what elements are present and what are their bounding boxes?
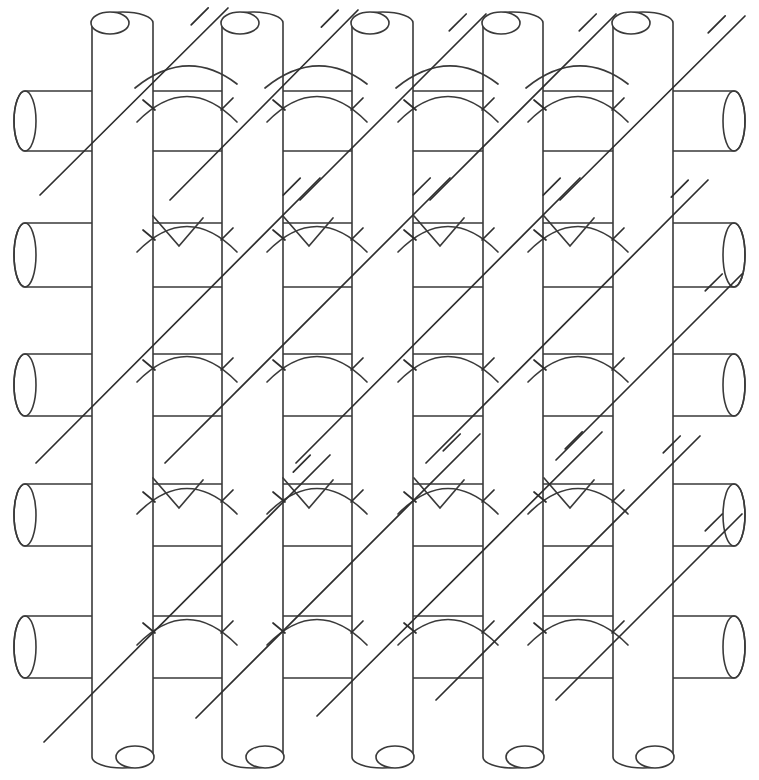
- vertical-tube-bottom-cap-5: [636, 746, 674, 768]
- figure-canvas: [0, 0, 759, 780]
- vertical-tube-body-4: [483, 12, 543, 768]
- vertical-tube-body-5: [613, 12, 673, 768]
- vertical-tube-top-cap-4: [482, 12, 520, 34]
- bias-strand-dash: [321, 10, 338, 27]
- woven-lattice-drawing: [0, 0, 759, 780]
- vertical-tube-bottom-cap-1: [116, 746, 154, 768]
- vertical-tube-top-cap-1: [91, 12, 129, 34]
- bias-strand-dash: [543, 178, 560, 195]
- bias-strand-dash: [191, 8, 208, 25]
- bias-strand-dash: [449, 14, 466, 31]
- vertical-tube-top-cap-3: [351, 12, 389, 34]
- bias-strand-dash: [413, 178, 430, 195]
- bias-strand-dash: [708, 16, 725, 33]
- bias-strand-dash: [671, 180, 688, 197]
- vertical-tube-body-3: [352, 12, 413, 768]
- vertical-tube-body-1: [92, 12, 153, 768]
- vertical-tube-bottom-cap-2: [246, 746, 284, 768]
- vertical-tube-body-2: [222, 12, 283, 768]
- vertical-tube-top-cap-5: [612, 12, 650, 34]
- vertical-tube-bottom-cap-4: [506, 746, 544, 768]
- bias-strand-dash: [579, 14, 596, 31]
- bias-strand-dash: [565, 432, 582, 449]
- vertical-tube-bottom-cap-3: [376, 746, 414, 768]
- bias-strand-dash: [283, 178, 300, 195]
- vertical-tube-top-cap-2: [221, 12, 259, 34]
